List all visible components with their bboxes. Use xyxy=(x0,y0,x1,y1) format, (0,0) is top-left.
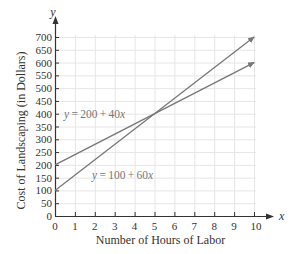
y-tick-label: 400 xyxy=(36,108,53,120)
x-tick-label: 8 xyxy=(211,220,217,232)
tick-labels: 0123456789100501001502002503003504004505… xyxy=(36,31,263,232)
y-tick-label: 350 xyxy=(36,121,53,133)
y-tick-label: 200 xyxy=(36,159,53,171)
x-tick-label: 1 xyxy=(72,220,78,232)
y-axis-title: Cost of Landscaping (in Dollars) xyxy=(14,52,28,210)
y-tick-label: 550 xyxy=(36,69,53,81)
x-tick-label: 10 xyxy=(251,220,263,232)
y-axis-variable: y xyxy=(49,5,56,19)
y-tick-label: 450 xyxy=(36,95,53,107)
line-label-200-40x: y = 200 + 40x xyxy=(63,108,126,121)
x-tick-label: 6 xyxy=(172,220,178,232)
x-tick-label: 7 xyxy=(192,220,198,232)
y-tick-label: 500 xyxy=(36,82,53,94)
y-tick-label: 0 xyxy=(47,210,53,222)
x-tick-label: 9 xyxy=(231,220,237,232)
y-tick-label: 300 xyxy=(36,133,53,145)
chart: 0123456789100501001502002503003504004505… xyxy=(0,0,295,254)
y-tick-label: 100 xyxy=(36,184,53,196)
line-label-100-60x: y = 100 + 60x xyxy=(91,169,154,182)
y-tick-label: 700 xyxy=(36,31,53,43)
labels: yxNumber of Hours of LaborCost of Landsc… xyxy=(14,5,285,247)
x-tick-label: 3 xyxy=(112,220,118,232)
y-tick-label: 150 xyxy=(36,172,53,184)
x-tick-label: 2 xyxy=(92,220,98,232)
y-tick-label: 650 xyxy=(36,44,53,56)
x-axis-title: Number of Hours of Labor xyxy=(96,233,225,247)
y-tick-label: 250 xyxy=(36,146,53,158)
x-axis-arrow-icon xyxy=(266,214,274,220)
x-tick-label: 4 xyxy=(132,220,138,232)
y-tick-label: 600 xyxy=(36,57,53,69)
y-tick-label: 50 xyxy=(41,197,53,209)
x-tick-label: 5 xyxy=(152,220,158,232)
x-axis-variable: x xyxy=(278,209,285,223)
grid xyxy=(55,35,256,216)
x-tick-label: 0 xyxy=(52,220,58,232)
